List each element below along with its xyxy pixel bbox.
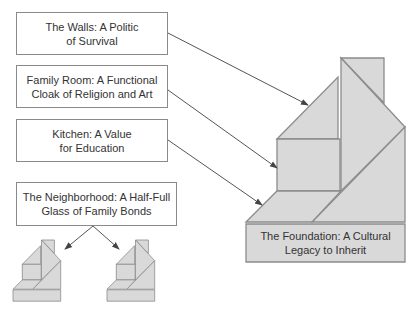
- label-kitchen-line2: for Education: [60, 141, 125, 155]
- label-walls-line2: of Survival: [66, 34, 117, 48]
- neighborhood-arrow-right: [93, 226, 119, 249]
- label-foundation-line1: The Foundation: A Cultural: [260, 229, 390, 243]
- neighbor-house-right-foundation-block: [107, 290, 155, 301]
- label-foundation: The Foundation: A Cultural Legacy to Inh…: [246, 224, 405, 262]
- label-kitchen-line1: Kitchen: A Value: [52, 127, 131, 141]
- label-neighborhood: The Neighborhood: A Half-Full Glass of F…: [16, 182, 177, 226]
- label-family-room-line2: Cloak of Religion and Art: [31, 87, 152, 101]
- neighbor-house-right-family-room-block: [116, 264, 135, 280]
- neighbor-house-left-foundation-block: [13, 290, 61, 301]
- label-kitchen: Kitchen: A Value for Education: [16, 119, 168, 162]
- house-family-room-block: [277, 139, 340, 191]
- neighbor-house-right: [107, 240, 155, 301]
- label-foundation-line2: Legacy to Inherit: [285, 243, 366, 257]
- label-walls: The Walls: A Politic of Survival: [16, 12, 168, 55]
- label-neighborhood-line2: Glass of Family Bonds: [41, 204, 151, 218]
- kitchen-arrow: [168, 140, 262, 205]
- label-family-room: Family Room: A Functional Cloak of Relig…: [16, 65, 168, 108]
- house-roof-left: [277, 77, 338, 139]
- walls-arrow: [168, 33, 308, 105]
- neighbor-house-left-roof-left: [22, 246, 40, 265]
- label-neighborhood-line1: The Neighborhood: A Half-Full: [23, 190, 170, 204]
- label-family-room-line1: Family Room: A Functional: [27, 73, 158, 87]
- neighborhood-arrow-left: [65, 226, 93, 249]
- family-room-arrow: [168, 90, 277, 168]
- neighbor-house-left: [13, 240, 61, 301]
- neighborhood-houses: [13, 240, 155, 301]
- label-walls-line1: The Walls: A Politic: [45, 20, 138, 34]
- neighbor-house-left-family-room-block: [22, 264, 41, 280]
